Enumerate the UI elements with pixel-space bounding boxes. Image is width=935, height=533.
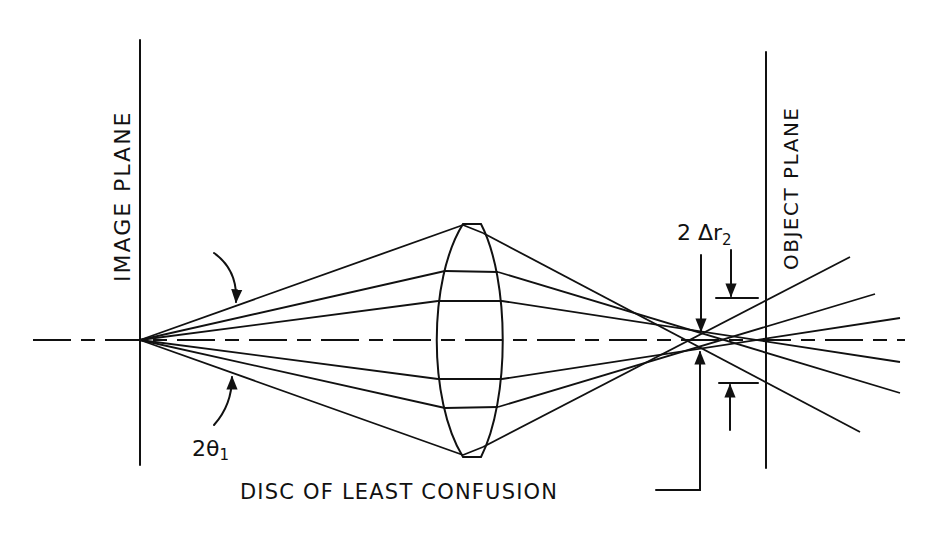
image-plane-label: IMAGE PLANE — [110, 110, 135, 282]
angle-arrow-upper — [214, 253, 236, 302]
disc-arrow-bottom — [656, 352, 700, 490]
object-plane-label: OBJECT PLANE — [779, 107, 803, 270]
delta-r-bottom-tick — [719, 383, 758, 430]
delta-r-label: 2 Δr2 — [677, 220, 732, 249]
delta-r-top-tick — [716, 250, 758, 298]
angle-arrow-lower — [214, 377, 232, 425]
lens-aberration-diagram: IMAGE PLANE OBJECT PLANE — [0, 0, 935, 533]
angle-label: 2θ1 — [192, 436, 229, 464]
disc-label: DISC OF LEAST CONFUSION — [240, 480, 558, 504]
